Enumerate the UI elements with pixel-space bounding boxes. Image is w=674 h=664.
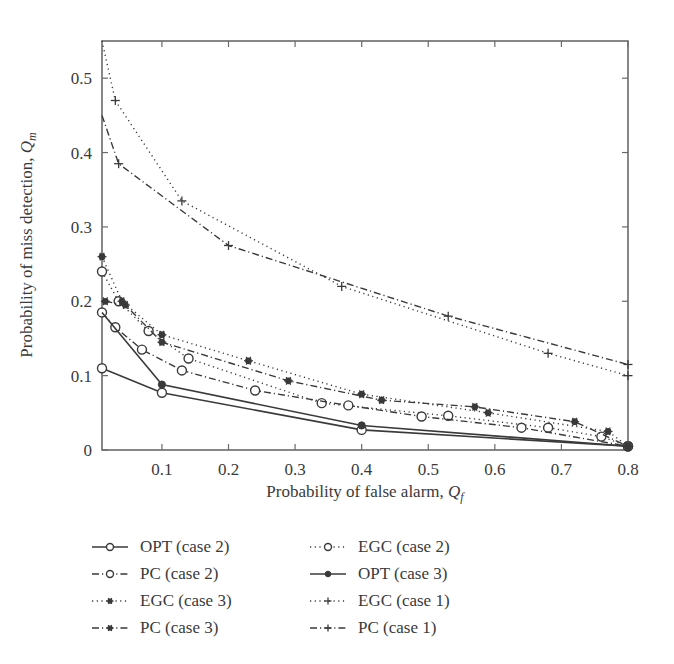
y-tick-label: 0.3 (71, 218, 92, 237)
legend-swatch-icon (308, 594, 348, 608)
y-tick-label: 0.5 (71, 69, 92, 88)
x-tick-label: 0.2 (218, 460, 239, 479)
legend-swatch-icon (308, 540, 348, 554)
legend-label: EGC (case 1) (358, 591, 450, 611)
y-tick-label: 0.1 (71, 367, 92, 386)
x-axis-ticks: 0.10.20.30.40.50.60.70.8 (151, 41, 638, 479)
legend-swatch-icon (308, 567, 348, 581)
legend-label: EGC (case 3) (140, 591, 232, 611)
legend-swatch-icon (90, 621, 130, 635)
series-layer (98, 41, 633, 451)
x-tick-label: 0.6 (484, 460, 505, 479)
series-pc-case-1 (102, 115, 633, 369)
legend-item: OPT (case 3) (308, 562, 528, 586)
legend-swatch-icon (90, 567, 130, 581)
legend-item: OPT (case 2) (90, 535, 308, 559)
x-axis-title: Probability of false alarm, Qf (266, 482, 465, 504)
legend-item: EGC (case 1) (308, 589, 528, 613)
legend-item: EGC (case 2) (308, 535, 528, 559)
x-tick-label: 0.3 (284, 460, 305, 479)
legend-label: PC (case 2) (140, 564, 218, 584)
y-axis-title: Probability of miss detection, Qm (17, 132, 39, 358)
x-tick-label: 0.4 (351, 460, 373, 479)
legend-label: OPT (case 2) (140, 537, 229, 557)
legend-item: EGC (case 3) (90, 589, 308, 613)
x-tick-label: 0.5 (418, 460, 439, 479)
x-tick-label: 0.7 (551, 460, 573, 479)
legend-label: PC (case 3) (140, 618, 218, 638)
legend-item: PC (case 2) (90, 562, 308, 586)
legend: OPT (case 2)EGC (case 2)PC (case 2)OPT (… (90, 535, 550, 640)
legend-label: OPT (case 3) (358, 564, 447, 584)
series-egc-case-3 (98, 253, 633, 450)
chart-svg: 0.10.20.30.40.50.60.70.8 00.10.20.30.40.… (0, 0, 674, 530)
legend-swatch-icon (90, 540, 130, 554)
y-tick-label: 0 (84, 441, 93, 460)
legend-item: PC (case 3) (90, 616, 308, 640)
y-tick-label: 0.4 (71, 144, 93, 163)
x-tick-label: 0.8 (617, 460, 638, 479)
legend-label: EGC (case 2) (358, 537, 450, 557)
legend-swatch-icon (308, 621, 348, 635)
legend-swatch-icon (90, 594, 130, 608)
legend-item: PC (case 1) (308, 616, 528, 640)
x-tick-label: 0.1 (151, 460, 172, 479)
legend-label: PC (case 1) (358, 618, 436, 638)
y-tick-label: 0.2 (71, 292, 92, 311)
